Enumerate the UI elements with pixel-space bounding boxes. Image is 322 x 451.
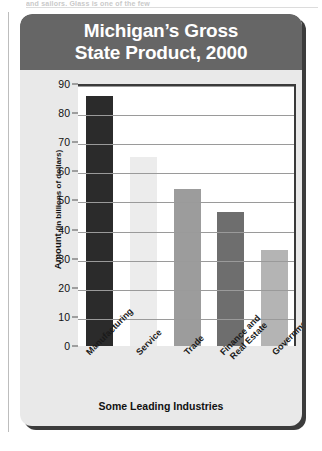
gridline (78, 232, 294, 233)
gridline (78, 290, 294, 291)
gridline (78, 86, 294, 87)
y-axis-tick-mark (72, 229, 78, 230)
chart-title-line2: State Product, 2000 (75, 42, 248, 63)
y-axis-tick-label: 10 (48, 311, 70, 323)
y-axis-tick-mark (72, 200, 78, 201)
y-axis-tick-label: 50 (48, 194, 70, 206)
gridline (78, 144, 294, 145)
y-axis-tick-label: 60 (48, 165, 70, 177)
y-axis-tick-mark (72, 171, 78, 172)
bar-series (78, 86, 294, 346)
y-axis-tick-label: 40 (48, 224, 70, 236)
y-axis-tick-label: 80 (48, 107, 70, 119)
chart-title-bar: Michigan’s Gross State Product, 2000 (20, 14, 302, 70)
page-left-rule (8, 12, 9, 432)
y-axis-tick-mark (72, 287, 78, 288)
y-axis-tick-mark (72, 142, 78, 143)
y-axis-tick-label: 70 (48, 136, 70, 148)
chart-figure: Michigan’s Gross State Product, 2000 Amo… (20, 14, 302, 426)
y-axis-tick-mark (72, 346, 78, 347)
y-axis-tick-mark (72, 258, 78, 259)
y-axis-tick-mark (72, 84, 78, 85)
y-axis-tick-label: 90 (48, 78, 70, 90)
clipped-page-text: and sailors. Glass is one of the few (26, 0, 316, 7)
x-axis-category-labels: ManufacturingServiceTradeFinance andReal… (78, 346, 302, 408)
bar (86, 96, 113, 346)
page-top-rule (26, 7, 318, 8)
bar (130, 157, 157, 346)
chart-title-line1: Michigan’s Gross (84, 20, 238, 41)
plot-area (78, 84, 296, 346)
bar (261, 250, 288, 346)
x-axis-title: Some Leading Industries (20, 400, 302, 412)
y-axis-tick-mark (72, 316, 78, 317)
bar (174, 189, 201, 346)
gridline (78, 173, 294, 174)
chart-title: Michigan’s Gross State Product, 2000 (65, 20, 258, 64)
y-axis-tick-label: 0 (48, 340, 70, 352)
y-axis-tick-label: 20 (48, 282, 70, 294)
y-axis-tick-label: 30 (48, 253, 70, 265)
gridline (78, 261, 294, 262)
gridline (78, 202, 294, 203)
y-axis-tick-mark (72, 113, 78, 114)
y-axis-tick-labels: 0102030405060708090 (48, 84, 70, 346)
gridline (78, 115, 294, 116)
